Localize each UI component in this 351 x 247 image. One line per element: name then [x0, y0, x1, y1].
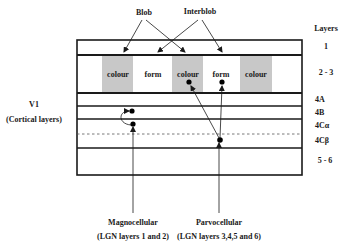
- layer-label-4cbeta: 4Cβ: [315, 137, 329, 145]
- blob-arrow-left: [124, 20, 142, 52]
- layers-header: Layers: [314, 25, 338, 33]
- parvocellular-title: Parvocellular: [196, 219, 242, 227]
- magnocellular-subtitle: (LGN layers 1 and 2): [97, 233, 169, 241]
- blob-label: Blob: [136, 9, 152, 17]
- column-label-3: colour: [177, 70, 199, 79]
- layer-label-5-6: 5 - 6: [318, 157, 333, 165]
- v1-title: V1: [29, 101, 39, 109]
- interblob-arrow-left: [158, 20, 198, 52]
- layer-label-1: 1: [324, 43, 328, 51]
- layer-label-4b: 4B: [315, 109, 324, 117]
- magnocellular-4calpha-to-4b-arrow: [121, 111, 131, 125]
- parvocellular-4cbeta-neuron: [217, 137, 223, 143]
- magnocellular-4b-neuron: [129, 108, 134, 113]
- magnocellular-4calpha-neuron: [130, 121, 135, 126]
- interblob-neuron: [219, 79, 224, 84]
- layer-label-4calpha: 4Cα: [315, 122, 329, 130]
- column-label-2: form: [145, 70, 162, 79]
- layer-label-4a: 4A: [315, 96, 325, 104]
- column-label-4: form: [213, 70, 230, 79]
- layer-label-2-3: 2 - 3: [319, 69, 334, 77]
- interblob-arrow-right: [202, 20, 222, 52]
- column-label-5: colour: [245, 70, 267, 79]
- parvocellular-subtitle: (LGN layers 3,4,5 and 6): [177, 233, 261, 241]
- interblob-label: Interblob: [184, 8, 216, 16]
- blob-arrow-right: [146, 20, 185, 52]
- v1-subtitle: (Cortical layers): [6, 116, 62, 124]
- blob-neuron: [186, 79, 191, 84]
- column-label-1: colour: [107, 70, 129, 79]
- magnocellular-title: Magnocellular: [108, 219, 158, 227]
